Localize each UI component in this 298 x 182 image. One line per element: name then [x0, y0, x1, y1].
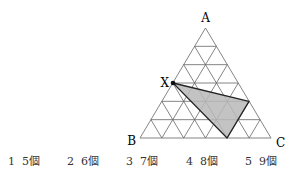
point-x-dot — [171, 81, 176, 86]
label-x: X — [160, 76, 169, 90]
choice-3[interactable]: 37個 — [126, 152, 158, 168]
choice-4[interactable]: 48個 — [186, 152, 218, 168]
choice-2[interactable]: 26個 — [67, 152, 99, 168]
label-c: C — [276, 136, 285, 150]
triangle-grid-diagram: A B C X — [0, 0, 298, 150]
choice-1[interactable]: 15個 — [8, 152, 40, 168]
label-b: B — [127, 134, 136, 148]
answer-choices: 15個 26個 37個 48個 59個 — [8, 152, 298, 172]
choice-5[interactable]: 59個 — [245, 152, 277, 168]
shaded-triangle — [173, 83, 249, 138]
label-a: A — [200, 11, 210, 25]
